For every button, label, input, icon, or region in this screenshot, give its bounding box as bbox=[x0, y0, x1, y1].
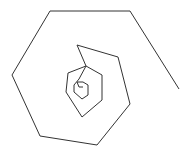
spiral-drawing bbox=[0, 0, 189, 158]
spiral-svg bbox=[0, 0, 189, 158]
spiral-line bbox=[12, 11, 179, 145]
